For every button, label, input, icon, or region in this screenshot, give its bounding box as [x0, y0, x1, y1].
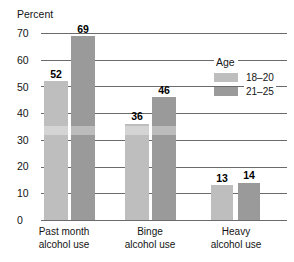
x-category-line1: Binge: [137, 226, 163, 237]
y-tick-label-70: 70: [17, 28, 37, 39]
bar-value-heavy-18-20: 13: [211, 173, 233, 184]
legend-swatch-icon-18-20: [214, 73, 238, 82]
x-category-line2: alcohol use: [14, 239, 114, 252]
x-category-line1: Heavy: [222, 226, 250, 237]
bar-value-binge-18-20: 36: [125, 111, 149, 122]
y-tick-label-20: 20: [17, 161, 37, 172]
axis-baseline: [41, 220, 287, 221]
bar-past-month-21-25[interactable]: [71, 36, 95, 220]
bar-value-heavy-21-25: 14: [238, 170, 260, 181]
x-category-label-heavy: Heavy alcohol use: [186, 226, 286, 251]
legend-title: Age: [214, 56, 238, 68]
y-tick-label-10: 10: [17, 188, 37, 199]
bar-past-month-18-20[interactable]: [44, 81, 68, 220]
x-category-line1: Past month: [39, 226, 90, 237]
bar-heavy-21-25[interactable]: [238, 183, 260, 220]
bar-binge-21-25[interactable]: [152, 97, 176, 220]
plot-area: [41, 33, 287, 220]
y-tick-label-0: 0: [17, 215, 37, 226]
x-category-line2: alcohol use: [100, 239, 200, 252]
bar-value-past-month-18-20: 52: [44, 69, 68, 80]
bar-heavy-18-20[interactable]: [211, 185, 233, 220]
y-tick-label-40: 40: [17, 108, 37, 119]
bar-chart: Percent 70 60 50 40 30 20 10 0 52 69 36 …: [0, 0, 294, 262]
x-category-label-past-month: Past month alcohol use: [14, 226, 114, 251]
legend-label-18-20: 18–20: [244, 72, 276, 83]
x-category-label-binge: Binge alcohol use: [100, 226, 200, 251]
y-tick-label-60: 60: [17, 55, 37, 66]
y-axis-title: Percent: [17, 8, 53, 20]
legend-swatch-icon-21-25: [214, 87, 238, 96]
legend-label-21-25: 21–25: [244, 86, 276, 97]
y-tick-label-50: 50: [17, 82, 37, 93]
x-category-line2: alcohol use: [186, 239, 286, 252]
bar-value-past-month-21-25: 69: [71, 24, 95, 35]
bar-value-binge-21-25: 46: [152, 85, 176, 96]
y-tick-label-30: 30: [17, 135, 37, 146]
bar-binge-18-20[interactable]: [125, 124, 149, 220]
